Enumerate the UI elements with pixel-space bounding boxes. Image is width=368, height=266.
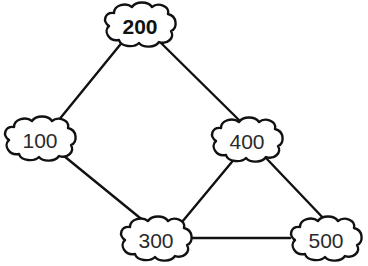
node-label: 100 (22, 129, 57, 152)
node-500: 500 (291, 217, 361, 261)
node-200: 200 (105, 3, 175, 47)
node-label: 500 (308, 229, 343, 252)
edge-400-300 (182, 157, 236, 222)
node-label: 200 (122, 15, 157, 38)
node-400: 400 (212, 118, 282, 162)
edge-200-400 (160, 42, 240, 121)
node-label: 400 (229, 130, 264, 153)
node-label: 300 (138, 229, 173, 252)
graph-diagram: 200 100 400 300 500 (0, 0, 368, 266)
edge-100-300 (64, 156, 145, 222)
edge-200-100 (58, 40, 124, 121)
edges (58, 40, 326, 238)
edge-400-500 (266, 158, 326, 221)
node-300: 300 (121, 217, 191, 261)
node-100: 100 (5, 117, 75, 161)
